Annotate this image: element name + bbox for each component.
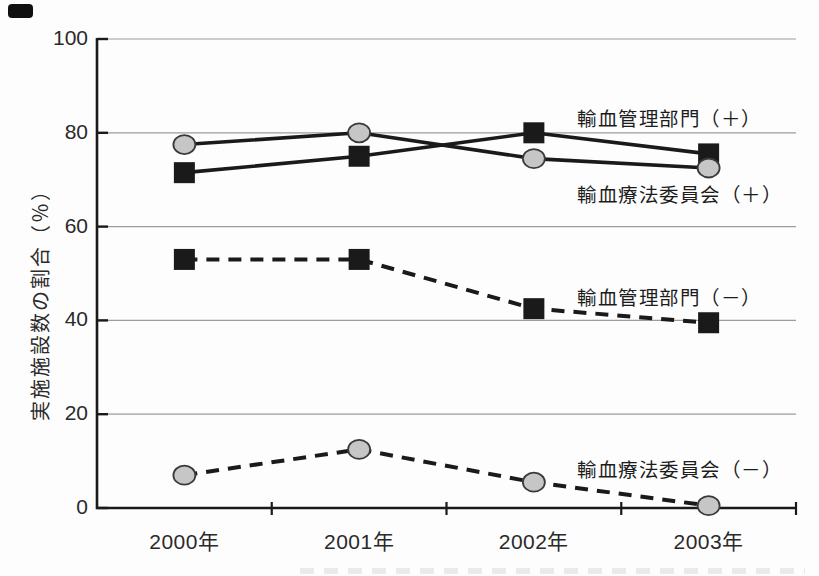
gray-circle-marker: [698, 158, 720, 177]
series-label-transfusion-management-minus: 輸血管理部門（－）: [577, 282, 762, 311]
x-tick-label: 2002年: [464, 525, 604, 555]
gray-circle-marker: [173, 135, 195, 154]
series-label-transfusion-therapy-committee-plus: 輸血療法委員会（＋）: [577, 179, 782, 208]
gray-circle-marker: [348, 123, 370, 142]
y-tick-label: 80: [18, 120, 88, 144]
gray-circle-marker: [173, 466, 195, 485]
y-tick-label: 20: [18, 401, 88, 425]
gray-circle-marker: [698, 496, 720, 515]
gray-circle-marker: [348, 440, 370, 459]
black-square-marker: [523, 122, 544, 143]
black-square-marker: [523, 298, 544, 319]
scan-ghost-text: [300, 568, 805, 574]
series-line-1: [184, 133, 708, 168]
x-tick-label: 2003年: [639, 525, 779, 555]
x-tick-label: 2001年: [289, 525, 429, 555]
y-tick-label: 60: [18, 214, 88, 238]
black-square-marker: [698, 312, 719, 333]
y-tick-label: 0: [18, 495, 88, 519]
y-tick-label: 40: [18, 307, 88, 331]
series-label-transfusion-management-plus: 輸血管理部門（＋）: [577, 103, 762, 132]
black-square-marker: [349, 146, 370, 167]
series-label-transfusion-therapy-committee-minus: 輸血療法委員会（－）: [577, 454, 782, 483]
line-chart-figure: 実施施設数の割合（％） 輸血管理部門（＋） 輸血療法委員会（＋） 輸血管理部門（…: [0, 0, 819, 576]
gray-circle-marker: [523, 149, 545, 168]
black-square-marker: [174, 162, 195, 183]
x-tick-label: 2000年: [114, 525, 254, 555]
black-square-marker: [349, 249, 370, 270]
y-tick-label: 100: [18, 26, 88, 50]
black-square-marker: [174, 249, 195, 270]
gray-circle-marker: [523, 473, 545, 492]
